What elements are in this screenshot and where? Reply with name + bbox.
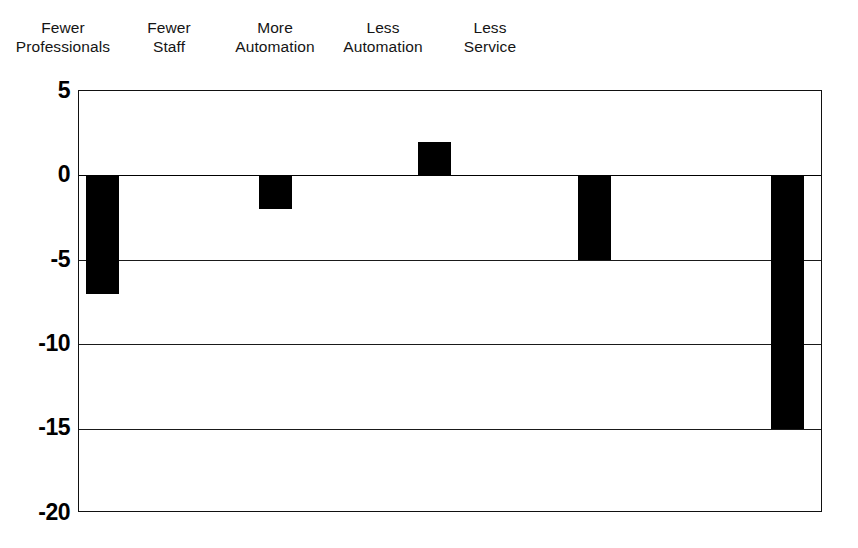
- gridline-neg5: [79, 260, 821, 261]
- gridline-neg15: [79, 429, 821, 430]
- y-axis: 5 0 -5 -10 -15 -20: [0, 90, 70, 512]
- plot-area: [78, 90, 822, 512]
- y-tick-neg20: -20: [0, 501, 70, 524]
- bar-fewer-professionals: [86, 175, 119, 293]
- gridline-neg10: [79, 344, 821, 345]
- y-tick-5: 5: [0, 79, 70, 102]
- y-tick-neg10: -10: [0, 332, 70, 355]
- plot-clip: [79, 91, 821, 511]
- bar-less-automation: [578, 175, 611, 259]
- category-label-less-service: Less Service: [410, 18, 570, 56]
- y-tick-neg15: -15: [0, 416, 70, 439]
- bar-fewer-staff: [259, 175, 292, 209]
- y-tick-neg5: -5: [0, 248, 70, 271]
- y-tick-0: 0: [0, 163, 70, 186]
- bar-less-service: [771, 175, 804, 428]
- gridline-0: [79, 175, 821, 176]
- bar-chart-figure: Fewer Professionals Fewer Staff More Aut…: [0, 0, 858, 548]
- bar-more-automation: [418, 142, 451, 176]
